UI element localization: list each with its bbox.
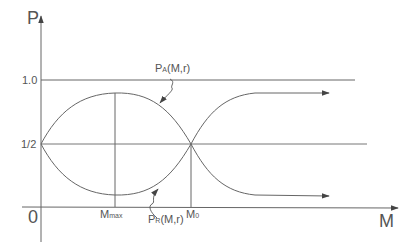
- pa-args: (M,r): [167, 62, 190, 74]
- y-axis-label: P: [27, 9, 39, 27]
- curve-pr-left: [41, 144, 191, 195]
- tick-half-label: 1/2: [21, 139, 36, 150]
- curve-pa-right: [191, 93, 329, 144]
- x-axis-label: M: [379, 212, 394, 230]
- m-zero-label: M0: [186, 209, 199, 220]
- x-axis: [22, 207, 398, 208]
- pa-curve-label: PA(M,r): [155, 63, 190, 74]
- curve-pa-left: [41, 93, 191, 144]
- pr-args: (M,r): [160, 213, 183, 225]
- tick-1-label: 1.0: [22, 75, 37, 86]
- m-max-label: Mmax: [100, 209, 122, 220]
- origin-label: 0: [28, 208, 38, 226]
- m-zero-sub: 0: [195, 212, 199, 219]
- probability-diagram: [0, 0, 416, 250]
- pr-curve-label: PR(M,r): [148, 214, 184, 225]
- m-max-main: M: [100, 208, 109, 220]
- m-zero-main: M: [186, 208, 195, 220]
- curve-pr-right: [191, 144, 329, 196]
- pa-leader: [160, 79, 173, 103]
- m-max-sub: max: [109, 212, 122, 219]
